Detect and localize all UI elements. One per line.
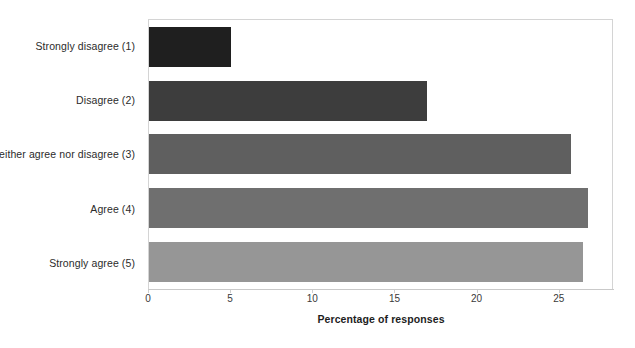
plot-area — [148, 19, 613, 290]
bar-row — [149, 74, 612, 128]
x-axis-ticks: 0510152025 — [148, 290, 614, 306]
x-tick-label: 20 — [471, 293, 482, 304]
x-tick-label: 0 — [145, 293, 151, 304]
bar-strongly-disagree — [149, 27, 231, 67]
category-label: Strongly agree (5) — [0, 236, 142, 290]
bar-agree — [149, 188, 588, 228]
bars-container — [149, 20, 612, 289]
x-tick-label: 10 — [307, 293, 318, 304]
category-label: Agree (4) — [0, 182, 142, 236]
bar-row — [149, 235, 612, 289]
category-label: Disagree (2) — [0, 73, 142, 127]
x-tick-label: 25 — [553, 293, 564, 304]
category-label: Strongly disagree (1) — [0, 19, 142, 73]
category-label: Neither agree nor disagree (3) — [0, 127, 142, 181]
bar-strongly-agree — [149, 242, 583, 282]
bar-row — [149, 181, 612, 235]
category-axis-labels: Strongly disagree (1) Disagree (2) Neith… — [0, 19, 142, 290]
bar-row — [149, 128, 612, 182]
x-tick-label: 15 — [389, 293, 400, 304]
bar-disagree — [149, 81, 427, 121]
x-tick-label: 5 — [227, 293, 233, 304]
horizontal-bar-chart: Strongly disagree (1) Disagree (2) Neith… — [0, 0, 635, 348]
bar-neither — [149, 134, 571, 174]
x-axis-title: Percentage of responses — [148, 313, 614, 325]
bar-row — [149, 20, 612, 74]
